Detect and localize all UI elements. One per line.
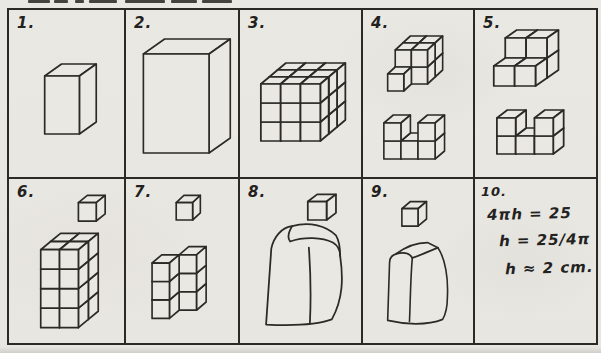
cell-1: 1. [9, 10, 126, 179]
math-line: h ≈ 2 cm. [505, 258, 594, 278]
cell-2: 2. [126, 10, 240, 179]
figure-staircase-and-u-shape [475, 10, 596, 177]
math-line: 4πh = 25 [487, 204, 572, 224]
figure-unit-cube-and-curved-wedge [363, 179, 473, 343]
math-line: h = 25/4π [499, 230, 591, 250]
figure-large-rectangular-prism [126, 10, 238, 177]
figure-unit-cube-and-curved-prism [240, 179, 361, 343]
figure-unit-cube-and-2x2x4-prism [9, 179, 124, 343]
cell-4: 4. [363, 10, 475, 179]
figure-cube-block-and-u-shape [363, 10, 473, 177]
cell-9: 9. [363, 179, 475, 343]
cell-10: 10. 4πh = 25 h = 25/4π h ≈ 2 cm. [475, 179, 596, 343]
figure-unit-cube-and-stepped-columns [126, 179, 238, 343]
cell-8: 8. [240, 179, 363, 343]
figure-small-rectangular-prism [9, 10, 124, 177]
handwritten-solution: 4πh = 25 h = 25/4π h ≈ 2 cm. [475, 179, 596, 343]
cropped-title-fragment [28, 0, 238, 4]
worksheet-grid: 1. 2. 3. 4. 5. 6. 7. 8. 9. 10. 4πh = 25 [7, 8, 598, 345]
cell-6: 6. [9, 179, 126, 343]
cell-7: 7. [126, 179, 240, 343]
cell-5: 5. [475, 10, 596, 179]
figure-3x3x3-cube [240, 10, 361, 177]
cell-3: 3. [240, 10, 363, 179]
